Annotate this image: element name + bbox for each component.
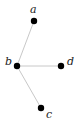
node-b — [14, 63, 20, 69]
node-label-a: a — [30, 3, 37, 16]
node-d — [58, 63, 64, 69]
graph-svg: abdc — [0, 0, 77, 121]
graph-diagram: abdc — [0, 0, 77, 121]
edges-group — [17, 21, 61, 108]
edge-b-c — [17, 66, 41, 108]
nodes-group — [14, 18, 64, 111]
node-label-d: d — [67, 55, 74, 68]
node-label-b: b — [5, 55, 12, 68]
node-c — [38, 105, 44, 111]
edge-b-a — [17, 21, 34, 66]
labels-group: abdc — [5, 3, 74, 121]
node-a — [31, 18, 37, 24]
node-label-c: c — [46, 108, 52, 121]
